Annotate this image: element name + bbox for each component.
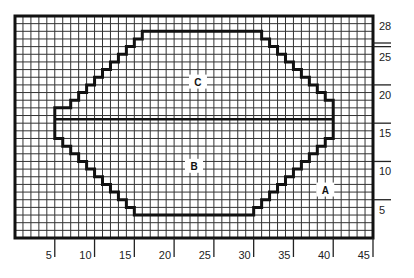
x-tick-label: 45 [358,249,370,261]
y-tick-label: 20 [379,89,391,101]
y-tick-label: 10 [379,165,391,177]
x-tick-label: 10 [79,249,91,261]
x-tick-label: 5 [46,249,52,261]
x-tick-label: 30 [238,249,250,261]
y-tick-label: 25 [379,51,391,63]
y-tick-label: 15 [379,127,391,139]
x-tick-label: 25 [199,249,211,261]
x-tick-label: 20 [159,249,171,261]
region-label-b: B [190,161,197,172]
grid-lines [15,16,373,238]
y-axis: 51015202528 [373,20,391,216]
knitting-chart: 51015202530354045 51015202528 ABC [0,0,414,278]
x-tick-label: 15 [119,249,131,261]
region-label-c: C [194,77,201,88]
region-label-a: A [322,185,329,196]
x-axis: 51015202530354045 [46,238,373,261]
y-tick-label: 28 [379,20,391,32]
y-tick-label: 5 [379,204,385,216]
chart-frame [15,16,373,238]
x-tick-label: 35 [278,249,290,261]
x-tick-label: 40 [318,249,330,261]
